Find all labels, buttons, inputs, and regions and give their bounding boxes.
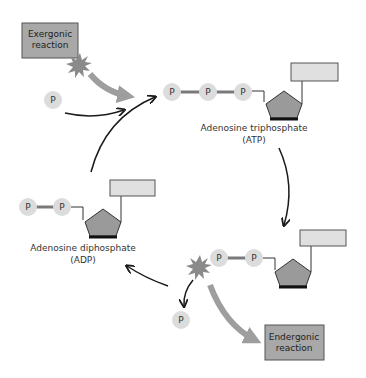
hydrolysis-phosphate-2: P <box>245 249 263 267</box>
hydrolysis-ribose-pentagon <box>275 259 311 287</box>
adp-phosphate-1: P <box>19 198 37 216</box>
endergonic-label-line1: Endergonic <box>269 332 320 342</box>
exergonic-reaction-box: Exergonic reaction <box>22 23 78 58</box>
atp-adp-cycle-diagram: Exergonic reaction P P P P <box>0 0 366 378</box>
adp-phosphate-2: P <box>53 198 71 216</box>
svg-text:P: P <box>251 253 257 263</box>
exergonic-label-line1: Exergonic <box>28 29 72 39</box>
adp-molecule: P P Adenosine diphosphate (ADP) <box>19 180 155 265</box>
svg-text:P: P <box>50 95 56 105</box>
svg-text:P: P <box>25 202 31 212</box>
hydrolysis-adenine-rect <box>300 230 346 246</box>
atp-molecule: P P P Adenosine triphosphate (ATP) <box>163 63 338 145</box>
svg-text:P: P <box>59 202 65 212</box>
adp-ribose-pentagon <box>85 209 121 237</box>
arrow-phosphate-out <box>184 280 193 306</box>
adp-label-line2: (ADP) <box>70 255 96 265</box>
cycle-arrow-atp-to-hydrolysis <box>279 148 289 225</box>
arrow-phosphate-in <box>65 110 124 116</box>
atp-phosphate-1: P <box>163 83 181 101</box>
svg-text:P: P <box>240 87 246 97</box>
energy-arrow-out <box>210 285 255 340</box>
atp-label-line1: Adenosine triphosphate <box>200 123 308 133</box>
hydrolysis-molecule: P P <box>210 230 346 287</box>
exergonic-label-line2: reaction <box>32 40 69 50</box>
starburst-icon-bottom <box>186 255 212 280</box>
cycle-arrow-adp-to-atp <box>91 97 155 172</box>
svg-text:P: P <box>169 87 175 97</box>
adp-adenine-rect <box>110 180 155 196</box>
atp-adenine-rect <box>291 63 338 81</box>
endergonic-label-line2: reaction <box>276 343 313 353</box>
free-phosphate-in: P <box>44 91 62 109</box>
svg-text:P: P <box>205 87 211 97</box>
energy-arrow-in <box>90 74 128 96</box>
atp-phosphate-3: P <box>234 83 252 101</box>
hydrolysis-phosphate-1: P <box>210 249 228 267</box>
svg-text:P: P <box>216 253 222 263</box>
atp-ribose-pentagon <box>266 91 302 119</box>
free-phosphate-out: P <box>172 311 190 329</box>
svg-text:P: P <box>178 315 184 325</box>
atp-label-line2: (ATP) <box>242 135 265 145</box>
atp-phosphate-2: P <box>199 83 217 101</box>
cycle-arrow-hydrolysis-to-adp <box>127 266 168 286</box>
endergonic-reaction-box: Endergonic reaction <box>265 325 324 360</box>
adp-label-line1: Adenosine diphosphate <box>30 243 136 253</box>
